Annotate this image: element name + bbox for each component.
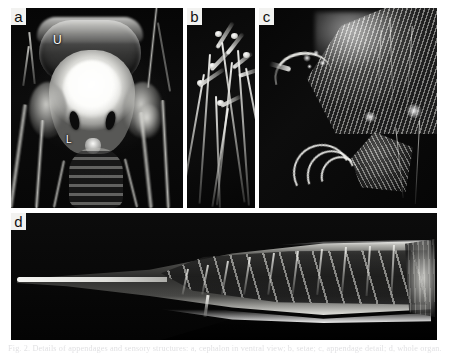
setal-socket (313, 50, 319, 56)
debris-speck (363, 112, 377, 122)
panel-label-a: a (11, 8, 26, 25)
figure-caption: Fig. 2. Details of appendages and sensor… (8, 344, 444, 354)
cephalic-highlight (63, 60, 121, 118)
maxilliped-left (29, 82, 67, 138)
seta-bulb (215, 31, 222, 37)
panel-c: c (259, 8, 437, 208)
panel-label-d: d (11, 213, 26, 230)
panel-b: b (187, 8, 255, 208)
debris-speck (405, 104, 423, 118)
seta-bulb (209, 63, 216, 69)
seta-bulb (231, 33, 238, 39)
panel-label-c: c (259, 8, 274, 25)
seta-bulb (197, 80, 204, 86)
distal-needle-process (17, 277, 167, 282)
annotation-l: L (66, 134, 72, 145)
setal-socket (319, 60, 326, 66)
panel-label-b: b (187, 8, 202, 25)
pereon-segments (69, 148, 123, 208)
setal-socket (307, 64, 312, 69)
seta-bulb (217, 100, 224, 106)
panel-a: U L a (11, 8, 183, 208)
annotation-u: U (53, 35, 62, 46)
distal-tip-cluster (405, 239, 435, 317)
setal-socket (303, 54, 311, 62)
seta-bulb (243, 52, 250, 58)
panel-d: d (11, 213, 437, 340)
